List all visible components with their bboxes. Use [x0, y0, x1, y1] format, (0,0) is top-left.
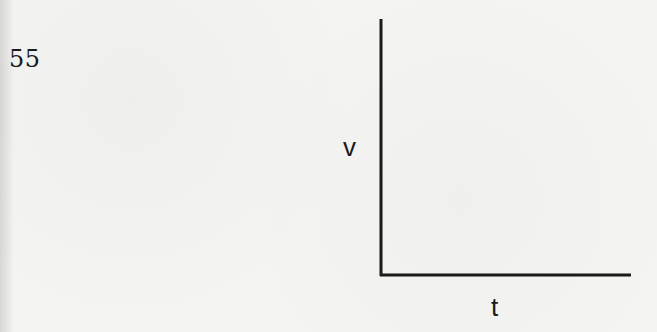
- velocity-time-axes: [0, 0, 657, 332]
- x-axis-label: t: [491, 292, 498, 323]
- y-axis-label: v: [343, 132, 356, 163]
